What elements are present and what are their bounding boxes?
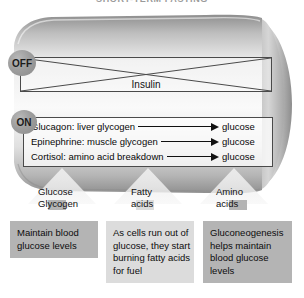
insulin-panel: Insulin	[20, 57, 272, 92]
output-label-line: Amino	[216, 186, 243, 198]
output-label-line: acids	[216, 198, 243, 210]
reaction-row: Cortisol: amino acid breakdown glucose	[24, 150, 272, 163]
result-box-amino-acids: Gluconeogenesis helps maintain blood glu…	[203, 221, 292, 283]
right-arrow-icon	[138, 122, 219, 131]
right-arrow-icon	[167, 152, 219, 161]
result-line: blood glucose	[210, 252, 286, 265]
reaction-source: Glucagon: liver glycogen	[24, 121, 135, 132]
insulin-label: Insulin	[21, 79, 271, 90]
reaction-source: Epinephrine: muscle glycogen	[24, 136, 158, 147]
result-line: levels	[210, 265, 286, 278]
status-badge-off: OFF	[8, 50, 36, 76]
reaction-source: Cortisol: amino acid breakdown	[24, 151, 164, 162]
result-line: burning fatty acids	[113, 252, 188, 265]
result-box-glucose-glycogen: Maintain blood glucose levels	[10, 221, 98, 258]
result-line: glucose levels	[17, 240, 92, 253]
result-line: Gluconeogenesis	[210, 227, 286, 240]
output-label-line: Glucose	[38, 186, 78, 198]
status-badge-on: ON	[11, 110, 37, 134]
output-label-fatty-acids: Fatty acids	[131, 186, 153, 210]
reaction-row: Epinephrine: muscle glycogen glucose	[24, 135, 272, 148]
hormone-reactions-panel: Glucagon: liver glycogen glucose Epineph…	[23, 117, 273, 167]
right-arrow-icon	[161, 137, 219, 146]
output-label-line: Glycogen	[38, 198, 78, 210]
reaction-product: glucose	[222, 136, 272, 147]
result-line: Maintain blood	[17, 227, 92, 240]
result-line: glucose, they start	[113, 240, 188, 253]
output-label-amino-acids: Amino acids	[216, 186, 243, 210]
reaction-product: glucose	[222, 121, 272, 132]
output-label-line: acids	[131, 198, 153, 210]
result-line: As cells run out of	[113, 227, 188, 240]
diagram-canvas: SHORT-TERM FASTING	[0, 0, 304, 298]
reaction-product: glucose	[222, 151, 272, 162]
output-label-line: Fatty	[131, 186, 153, 198]
reaction-row: Glucagon: liver glycogen glucose	[24, 120, 272, 133]
result-line: for fuel	[113, 265, 188, 278]
result-box-fatty-acids: As cells run out of glucose, they start …	[106, 221, 194, 283]
cylinder-graphic	[0, 0, 304, 210]
result-line: helps maintain	[210, 240, 286, 253]
output-label-glucose-glycogen: Glucose Glycogen	[38, 186, 78, 210]
